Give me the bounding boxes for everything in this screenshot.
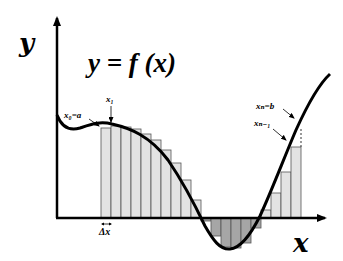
riemann-rectangle: [281, 172, 291, 218]
riemann-rectangle: [291, 147, 301, 218]
function-formula: y = f (x): [85, 48, 176, 78]
y-axis-label: y: [18, 28, 36, 58]
riemann-rectangle: [141, 134, 151, 218]
delta-x-marker: Δx: [98, 223, 112, 238]
label-delta-x: Δx: [98, 226, 110, 237]
arrow-xn: [283, 109, 294, 118]
x-axis-label: x: [292, 228, 309, 258]
riemann-rectangle: [211, 218, 221, 236]
riemann-rectangle: [111, 126, 121, 218]
label-x1: x₁: [105, 94, 114, 104]
label-x0-a: x₀=a: [63, 110, 82, 120]
riemann-rectangle: [221, 218, 231, 247]
arrow-xn-minus-1: [273, 129, 286, 140]
label-xn-minus-1: xₙ₋₁: [253, 118, 271, 128]
label-xn-b: xₙ=b: [255, 101, 275, 111]
riemann-rectangle: [121, 127, 131, 218]
riemann-sum-diagram: y x y = f (x) x₀=a x₁ xₙ=b xₙ₋₁ Δx: [0, 0, 343, 261]
riemann-rectangle: [101, 128, 111, 218]
function-curve: [57, 74, 330, 249]
riemann-rectangle: [271, 193, 281, 218]
riemann-rectangle: [131, 129, 141, 218]
